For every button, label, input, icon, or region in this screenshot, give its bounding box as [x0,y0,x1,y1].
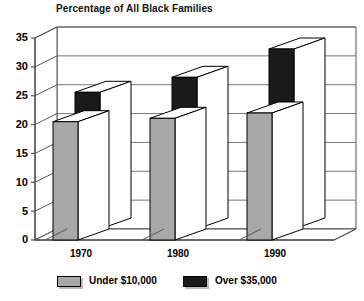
bar-1980-under-10000[interactable] [150,107,206,240]
legend-label-under-10000: Under $10,000 [89,275,157,286]
gray-swatch-icon [57,276,81,287]
y-tick-label-5: 5 [2,206,28,217]
x-tick-label-1990: 1990 [245,248,305,259]
y-tick-label-35: 35 [2,32,28,43]
y-tick-label-15: 15 [2,148,28,159]
y-tick-label-0: 0 [2,234,28,245]
bar-chart: Percentage of All Black Families [0,0,364,301]
legend-label-over-35000: Over $35,000 [215,275,277,286]
x-tick-label-1980: 1980 [148,248,208,259]
y-tick-label-25: 25 [2,90,28,101]
y-tick-label-10: 10 [2,177,28,188]
y-tick-label-20: 20 [2,119,28,130]
bar-1990-under-10000[interactable] [247,102,303,240]
y-tick-label-30: 30 [2,61,28,72]
chart-legend: Under $10,000 Over $35,000 [0,274,364,294]
legend-entry-under-10000[interactable]: Under $10,000 [57,274,177,292]
black-swatch-icon [183,276,207,287]
x-tick-label-1970: 1970 [51,248,111,259]
legend-entry-over-35000[interactable]: Over $35,000 [183,274,303,292]
bar-1970-under-10000[interactable] [53,111,109,240]
